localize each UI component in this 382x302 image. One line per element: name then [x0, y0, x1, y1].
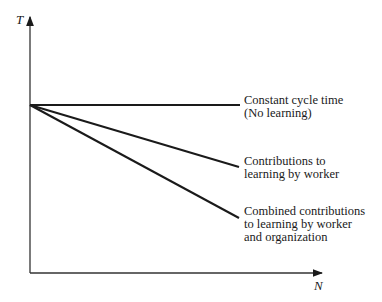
label-combined: Combined contributions to learning by wo…	[244, 205, 365, 244]
learning-curve-diagram	[0, 0, 382, 302]
label-line: (No learning)	[244, 107, 343, 120]
worker-learning-line	[30, 105, 239, 167]
label-constant: Constant cycle time (No learning)	[244, 94, 343, 120]
label-worker: Contributions to learning by worker	[244, 155, 339, 181]
y-axis-label: T	[16, 12, 23, 28]
x-axis-label: N	[314, 278, 323, 294]
label-line: learning by worker	[244, 168, 339, 181]
combined-learning-line	[30, 105, 239, 218]
label-line: and organization	[244, 231, 365, 244]
